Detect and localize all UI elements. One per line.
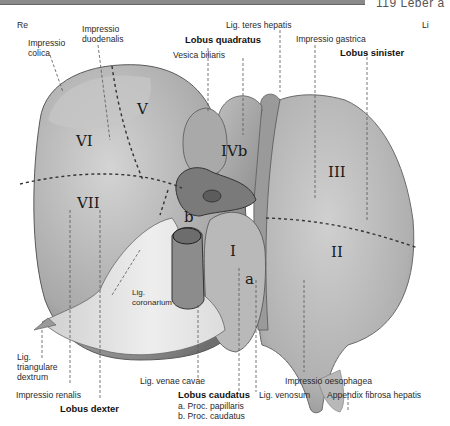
- label-lobus-sinister: Lobus sinister: [340, 48, 404, 58]
- label-appendix-fibrosa-hepatis: Appendix fibrosa hepatis: [327, 390, 421, 400]
- label-impressio-renalis: Impressio renalis: [16, 390, 81, 400]
- label-lig-venosum: Lig. venosum: [259, 390, 310, 400]
- label-lig-venae-cavae: Lig. venae cavae: [140, 376, 205, 386]
- label-lig-coronarium: Lig. coronarium: [132, 288, 172, 308]
- label-proc-papillaris: a. Proc. papillaris: [178, 401, 244, 411]
- segment-I: I: [230, 242, 236, 260]
- segment-III: III: [328, 163, 346, 181]
- label-impressio-oesophagea: Impressio oesophagea: [285, 376, 372, 386]
- label-impressio-colica: Impressio colica: [28, 38, 65, 58]
- segment-IVb: IVb: [221, 142, 247, 160]
- label-lig-teres-hepatis: Lig. teres hepatis: [226, 20, 291, 30]
- liver-illustration: [0, 0, 450, 426]
- segment-b: b: [184, 208, 194, 226]
- orientation-left-label: Li: [422, 20, 429, 30]
- label-lig-triangulare-dextrum: Lig. triangulare dextrum: [17, 352, 58, 382]
- label-impressio-duodenalis: Impressio duodenalis: [82, 24, 124, 44]
- label-lobus-caudatus: Lobus caudatus: [178, 390, 250, 400]
- orientation-right-label: Re: [17, 20, 28, 30]
- segment-VI: VI: [76, 132, 93, 150]
- label-proc-caudatus: b. Proc. caudatus: [178, 411, 245, 421]
- segment-VII: VII: [77, 194, 100, 212]
- label-lobus-quadratus: Lobus quadratus: [185, 35, 261, 45]
- segment-a: a: [245, 270, 254, 288]
- label-impressio-gastrica: Impressio gastrica: [296, 34, 366, 44]
- label-lobus-dexter: Lobus dexter: [60, 404, 119, 414]
- segment-V: V: [137, 100, 148, 118]
- segment-II: II: [331, 243, 343, 261]
- label-vesica-biliaris: Vesica biliaris: [173, 50, 225, 60]
